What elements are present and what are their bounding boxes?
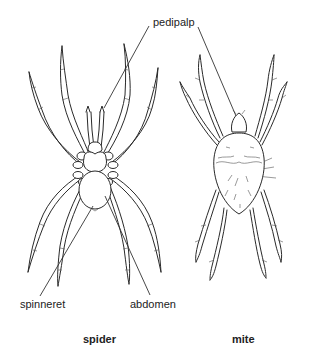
mite-body	[214, 133, 265, 214]
mite-drawing	[180, 55, 287, 280]
mite-caption: mite	[232, 334, 255, 345]
pedipalp-mite-leader	[198, 27, 236, 116]
pedipalp-spider-leader	[104, 26, 149, 108]
spider-cephalothorax	[83, 152, 106, 172]
mite-gnathosoma	[231, 113, 246, 132]
spider-caption: spider	[83, 334, 116, 345]
spider-leg	[61, 46, 87, 156]
abdomen-leader	[105, 196, 150, 295]
abdomen-label: abdomen	[130, 299, 176, 310]
spinneret-label: spinneret	[20, 299, 65, 310]
leader-lines	[40, 26, 236, 296]
spider-drawing	[28, 44, 161, 286]
spider-abdomen	[79, 171, 111, 209]
pedipalp-label: pedipalp	[153, 17, 195, 28]
